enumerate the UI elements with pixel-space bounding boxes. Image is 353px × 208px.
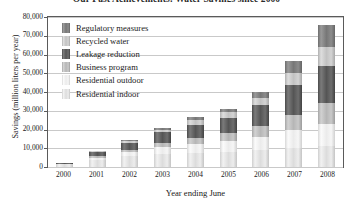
legend-item-label: Leakage reduction xyxy=(76,49,140,59)
stacked-bar xyxy=(285,61,302,167)
y-axis-tick-label: 40,000 xyxy=(0,88,43,95)
bar-segment xyxy=(318,103,335,124)
bar-segment xyxy=(252,150,269,167)
bar-segment xyxy=(220,152,237,167)
bar-column xyxy=(246,17,276,167)
y-axis-tick-label: 70,000 xyxy=(0,31,43,38)
chart-legend: Regulatory measuresRecycled waterLeakage… xyxy=(62,21,148,100)
legend-swatch-icon xyxy=(62,23,70,33)
y-axis-tick-label: 60,000 xyxy=(0,50,43,57)
bar-segment xyxy=(220,141,237,151)
chart-title: Our Past Achievements: Water Savings sin… xyxy=(0,0,353,2)
bar-segment xyxy=(252,126,269,137)
bar-segment xyxy=(154,154,171,167)
bar-column xyxy=(279,17,309,167)
y-axis-tick-label: 10,000 xyxy=(0,144,43,151)
chart-figure: Our Past Achievements: Water Savings sin… xyxy=(0,0,353,208)
bar-segment xyxy=(318,25,335,48)
y-axis-tick-label: 30,000 xyxy=(0,106,43,113)
x-axis-tick-label: 2006 xyxy=(247,170,277,181)
x-axis-tick-label: 2000 xyxy=(49,170,79,181)
bar-segment xyxy=(318,124,335,147)
legend-item: Business program xyxy=(62,61,148,74)
bar-segment xyxy=(89,160,106,168)
x-axis-ticks: 200020012002200320042005200620072008 xyxy=(47,170,344,181)
legend-item: Residential outdoor xyxy=(62,74,148,87)
x-axis-tick-label: 2002 xyxy=(115,170,145,181)
stacked-bar xyxy=(252,92,269,167)
legend-item: Regulatory measures xyxy=(62,21,148,34)
bar-segment xyxy=(285,73,302,84)
legend-swatch-icon xyxy=(62,75,70,85)
legend-item: Recycled water xyxy=(62,34,148,47)
bar-segment xyxy=(285,148,302,167)
bar-segment xyxy=(187,144,204,152)
legend-item-label: Regulatory measures xyxy=(76,23,148,33)
bar-column xyxy=(312,17,342,167)
stacked-bar xyxy=(187,117,204,167)
bar-segment xyxy=(252,105,269,126)
bar-segment xyxy=(285,115,302,131)
bar-segment xyxy=(285,85,302,115)
stacked-bar xyxy=(154,128,171,167)
y-axis-tick-label: 50,000 xyxy=(0,69,43,76)
x-axis-tick-label: 2007 xyxy=(280,170,310,181)
legend-item: Residential indoor xyxy=(62,87,148,100)
bar-segment xyxy=(318,66,335,104)
legend-swatch-icon xyxy=(62,62,70,72)
bar-segment xyxy=(187,125,204,138)
bar-segment xyxy=(252,137,269,150)
stacked-bar xyxy=(220,109,237,168)
stacked-bar xyxy=(56,163,73,167)
stacked-bar xyxy=(121,140,138,167)
legend-item-label: Residential outdoor xyxy=(76,75,144,85)
x-axis-tick-label: 2001 xyxy=(82,170,112,181)
bar-segment xyxy=(285,130,302,148)
bar-segment xyxy=(318,47,335,66)
bar-column xyxy=(148,17,178,167)
stacked-bar xyxy=(89,151,106,167)
bar-segment xyxy=(220,118,237,133)
bar-segment xyxy=(121,156,138,167)
bar-segment xyxy=(220,133,237,141)
legend-swatch-icon xyxy=(62,49,70,59)
bar-column xyxy=(180,17,210,167)
legend-item-label: Business program xyxy=(76,62,138,72)
stacked-bar xyxy=(318,25,335,168)
legend-item-label: Recycled water xyxy=(76,36,129,46)
bar-segment xyxy=(154,132,171,142)
gridline xyxy=(48,167,343,168)
legend-swatch-icon xyxy=(62,36,70,46)
y-axis-tick-mark xyxy=(44,167,48,168)
bar-segment xyxy=(285,61,302,73)
y-axis-tick-label: 20,000 xyxy=(0,125,43,132)
x-axis-tick-label: 2005 xyxy=(214,170,244,181)
bar-segment xyxy=(318,146,335,167)
legend-item-label: Residential indoor xyxy=(76,89,139,99)
x-axis-title: Year ending June xyxy=(47,188,344,198)
legend-swatch-icon xyxy=(62,89,70,99)
x-axis-tick-label: 2008 xyxy=(313,170,343,181)
bar-column xyxy=(213,17,243,167)
legend-item: Leakage reduction xyxy=(62,47,148,60)
bar-segment xyxy=(187,153,204,167)
x-axis-tick-label: 2004 xyxy=(181,170,211,181)
plot-area: Regulatory measuresRecycled waterLeakage… xyxy=(47,16,344,168)
bar-segment xyxy=(252,98,269,106)
y-axis-tick-label: 80,000 xyxy=(0,13,43,20)
y-axis-tick-label: 0 xyxy=(0,163,43,170)
bar-segment xyxy=(56,164,73,167)
x-axis-tick-label: 2003 xyxy=(148,170,178,181)
